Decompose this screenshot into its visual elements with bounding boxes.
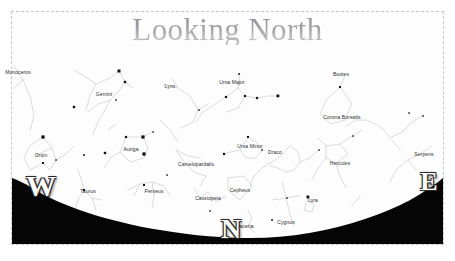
constellation-label-camelopardalis: Camelopardalis <box>178 161 214 167</box>
constellation-label-hercules: Hercules <box>330 160 351 166</box>
constellation-label-serpens: Serpens <box>414 151 433 157</box>
constellation-label-monoceros: Monoceros <box>5 69 31 75</box>
constellation-label-cassiopeia: Cassiopeia <box>195 195 221 201</box>
constellation-label-taurus: Taurus <box>80 188 96 194</box>
chart-title-block: Looking North Looking North <box>0 14 455 74</box>
constellation-label-ursa-minor: Ursa Minor <box>237 143 262 149</box>
constellation-label-auriga: Auriga <box>123 146 138 152</box>
constellation-label-corona-borealis: Corona Borealis <box>323 114 360 120</box>
star-chart-root: Looking North Looking North Monoceros Ge… <box>0 0 455 261</box>
constellation-label-perseus: Perseus <box>144 188 163 194</box>
constellation-label-ursa-major: Ursa Major <box>219 79 244 85</box>
constellation-label-bootes: Bootes <box>333 71 349 77</box>
constellation-label-lynx: Lynx <box>165 83 176 89</box>
page-title-reflection: Looking North <box>0 29 455 43</box>
constellation-label-cygnus: Cygnus <box>277 219 295 225</box>
compass-marker-east: E <box>420 169 437 195</box>
compass-marker-north: N <box>221 215 241 243</box>
constellation-label-orion: Orion <box>35 152 48 158</box>
compass-marker-west: W <box>26 171 56 201</box>
constellation-label-gemini: Gemini <box>96 91 112 97</box>
constellation-label-lyra: Lyra <box>308 197 318 203</box>
constellation-label-cepheus: Cepheus <box>230 187 251 193</box>
constellation-label-draco: Draco <box>268 149 282 155</box>
